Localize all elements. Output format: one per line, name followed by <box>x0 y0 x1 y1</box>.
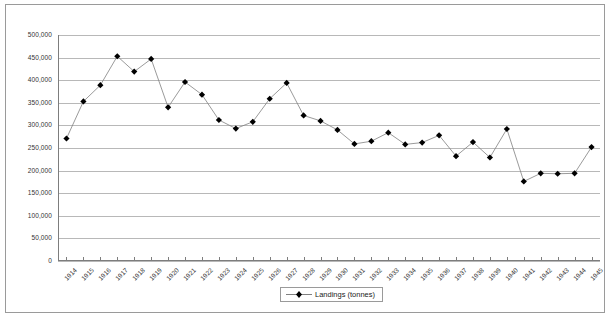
x-axis-tick-label: 1921 <box>182 267 197 282</box>
legend-label-landings: Landings (tonnes) <box>315 291 375 299</box>
x-axis-tick-label: 1942 <box>538 267 553 282</box>
x-axis-tick-label: 1945 <box>589 267 604 282</box>
x-axis-tick-label: 1915 <box>81 267 96 282</box>
data-point-marker <box>250 119 256 125</box>
data-point-marker <box>63 135 69 141</box>
data-point-marker <box>555 171 561 177</box>
plot-area: 050,000100,000150,000200,000250,000300,0… <box>58 35 600 261</box>
data-point-marker <box>300 112 306 118</box>
data-point-marker <box>419 139 425 145</box>
y-axis-tick-label: 200,000 <box>4 167 52 174</box>
x-axis-tick-label: 1928 <box>301 267 316 282</box>
data-point-marker <box>385 130 391 136</box>
y-axis-tick-label: 500,000 <box>4 32 52 39</box>
x-axis-tick-label: 1936 <box>436 267 451 282</box>
data-point-marker <box>402 141 408 147</box>
x-axis-tick-label: 1916 <box>98 267 113 282</box>
chart-legend: Landings (tonnes) <box>280 287 383 302</box>
x-axis-tick-label: 1914 <box>64 267 79 282</box>
x-axis-tick-label: 1933 <box>386 267 401 282</box>
gridline <box>58 261 600 262</box>
x-axis-tick-label: 1927 <box>284 267 299 282</box>
data-point-marker <box>317 118 323 124</box>
chart-frame: 050,000100,000150,000200,000250,000300,0… <box>5 4 605 313</box>
data-point-marker <box>571 170 577 176</box>
data-point-marker <box>216 117 222 123</box>
x-axis-tick-label: 1922 <box>199 267 214 282</box>
y-axis-tick-label: 150,000 <box>4 190 52 197</box>
y-axis-tick-label: 350,000 <box>4 100 52 107</box>
x-axis-tick-label: 1932 <box>369 267 384 282</box>
x-axis-tick-label: 1931 <box>352 267 367 282</box>
data-point-marker <box>165 104 171 110</box>
x-axis-tick-label: 1940 <box>504 267 519 282</box>
plot-inner <box>58 35 600 261</box>
x-axis-tick-label: 1925 <box>250 267 265 282</box>
y-axis-tick-label: 300,000 <box>4 122 52 129</box>
data-point-marker <box>588 144 594 150</box>
data-point-marker <box>148 56 154 62</box>
chart-screenshot: 050,000100,000150,000200,000250,000300,0… <box>0 0 616 328</box>
legend-marker-icon <box>286 290 312 299</box>
x-axis-tick-label: 1918 <box>132 267 147 282</box>
x-axis-tick-label: 1923 <box>216 267 231 282</box>
data-point-marker <box>199 92 205 98</box>
data-point-marker <box>504 126 510 132</box>
data-point-marker <box>182 79 188 85</box>
x-axis-tick-label: 1929 <box>318 267 333 282</box>
x-axis-tick-label: 1937 <box>453 267 468 282</box>
x-axis-tick-label: 1938 <box>470 267 485 282</box>
data-point-marker <box>233 125 239 131</box>
x-axis-tick-label: 1917 <box>115 267 130 282</box>
y-axis-tick-label: 400,000 <box>4 77 52 84</box>
data-point-marker <box>538 170 544 176</box>
x-axis-tick-label: 1926 <box>267 267 282 282</box>
x-axis-tick-label: 1924 <box>233 267 248 282</box>
y-axis-tick-label: 250,000 <box>4 145 52 152</box>
data-point-marker <box>368 138 374 144</box>
y-axis-tick-label: 100,000 <box>4 213 52 220</box>
x-axis-tick-label: 1919 <box>149 267 164 282</box>
x-axis-tick-label: 1944 <box>572 267 587 282</box>
data-series-landings <box>58 35 600 261</box>
x-axis-tick-label: 1941 <box>521 267 536 282</box>
x-axis-tick-label: 1920 <box>165 267 180 282</box>
data-point-marker <box>521 178 527 184</box>
x-axis-tick-label: 1935 <box>420 267 435 282</box>
x-axis-tick-label: 1934 <box>403 267 418 282</box>
x-axis-tick-label: 1930 <box>335 267 350 282</box>
y-axis-tick-label: 0 <box>4 258 52 265</box>
y-axis-tick-label: 50,000 <box>4 235 52 242</box>
y-axis-tick-label: 450,000 <box>4 54 52 61</box>
x-axis-tick-label: 1939 <box>487 267 502 282</box>
x-axis-tick-label: 1943 <box>555 267 570 282</box>
